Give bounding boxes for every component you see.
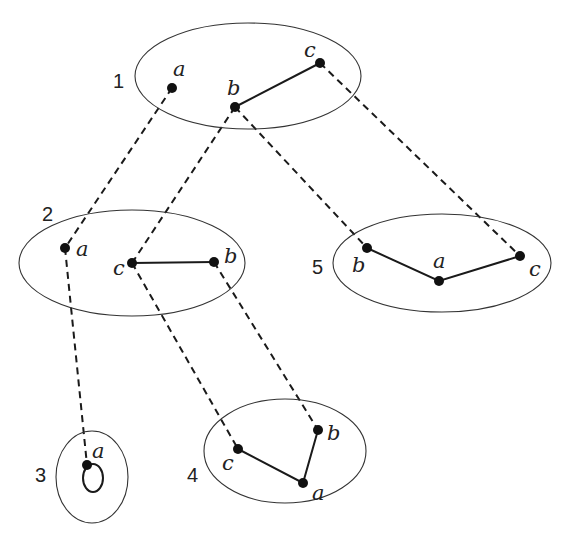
mapping-1c-5c [320,63,520,256]
graph-2: 2 a c b [19,203,245,316]
graph-1-label: 1 [113,70,124,92]
graph-4-label: 4 [187,464,198,486]
graph-4-vertex-b-label: b [327,421,340,445]
graph-4-vertex-a [298,478,308,488]
graph-4-vertex-c-label: c [222,451,234,475]
mapping-2b-4b [214,262,318,430]
graph-1-vertex-b-label: b [227,76,240,100]
graph-1-vertex-b [230,102,240,112]
graph-2-vertex-c-label: c [113,256,125,280]
graph-4: 4 c b a [187,399,366,505]
graph-5-label: 5 [312,256,323,278]
graph-4-vertex-a-label: a [312,481,325,505]
graph-1-ellipse [135,23,361,129]
graph-2-vertex-c [127,258,137,268]
graph-homomorphism-diagram: 1 a b c 2 a c b 5 b a c 3 a [0,0,576,546]
mapping-1b-2c [132,107,235,263]
mapping-2c-4c [132,263,238,449]
graph-5-vertex-b-label: b [352,253,365,277]
graph-3-label: 3 [35,464,46,486]
graph-5-vertex-c [515,251,525,261]
graph-1-vertex-a-label: a [173,57,186,81]
graph-1-vertex-c [315,58,325,68]
graph-1-vertex-c-label: c [304,38,316,62]
mapping-1b-5b [235,107,367,248]
graph-1-vertex-a [167,83,177,93]
graph-2-edge-cb [132,262,214,263]
graph-5-vertex-b [362,243,372,253]
graph-5: 5 b a c [312,214,551,312]
graph-2-vertex-b-label: b [224,244,237,268]
graph-5-vertex-c-label: c [529,257,541,281]
graph-2-vertex-b [209,257,219,267]
graph-1: 1 a b c [113,23,361,129]
mapping-1a-2a [65,88,172,248]
graph-2-label: 2 [42,203,53,225]
graph-2-vertex-a [60,243,70,253]
graph-4-vertex-c [233,444,243,454]
graph-3: 3 a [35,431,128,523]
graph-3-vertex-a [82,460,92,470]
graph-3-vertex-a-label: a [92,439,105,463]
graph-4-edges [238,430,318,483]
graph-1-edge-bc [235,63,320,107]
graph-5-vertex-a-label: a [433,249,446,273]
graph-5-vertex-a [434,276,444,286]
graph-4-vertex-b [313,425,323,435]
graph-2-vertex-a-label: a [76,237,89,261]
